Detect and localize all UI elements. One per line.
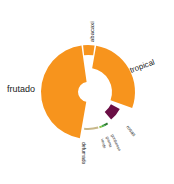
- segment-defumado[interactable]: [84, 127, 98, 130]
- chart-segments: [41, 45, 135, 138]
- label-abacaxi: abacaxi: [89, 21, 95, 42]
- segment-frutado[interactable]: [41, 45, 87, 138]
- label-frutado: frutado: [7, 84, 35, 94]
- label-defumado: defumado: [81, 142, 87, 164]
- segment-tropical[interactable]: [92, 46, 135, 108]
- segment-rosas[interactable]: [105, 104, 120, 119]
- segment-abacaxi[interactable]: [83, 45, 94, 55]
- segment-gorduroso[interactable]: [104, 123, 108, 127]
- label-tropical: tropical: [129, 58, 157, 75]
- label-rosas: rosas: [125, 124, 138, 138]
- sunburst-chart: frutadoabacaxitropicalrosasgordurosogram…: [0, 0, 174, 184]
